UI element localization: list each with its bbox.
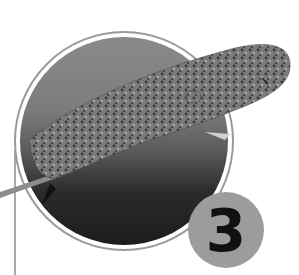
badge-number: 3	[206, 202, 246, 260]
number-badge: 3	[188, 192, 264, 268]
